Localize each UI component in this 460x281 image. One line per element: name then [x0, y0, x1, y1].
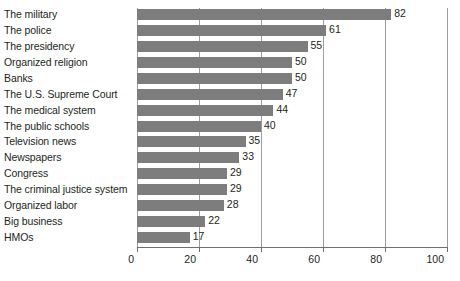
bar-value-label: 40: [261, 119, 276, 132]
category-label: The criminal justice system: [4, 183, 122, 198]
bar-value-label: 35: [246, 134, 261, 147]
category-label: Congress: [4, 167, 122, 182]
category-label: Banks: [4, 72, 122, 87]
x-axis-tick-label: 40: [246, 253, 261, 266]
x-axis-tick-label: 20: [184, 253, 199, 266]
bar-chart: The militaryThe policeThe presidencyOrga…: [0, 0, 460, 281]
bar-value-label: 29: [227, 182, 242, 195]
bar-row: 35: [137, 135, 447, 150]
bar: [137, 184, 227, 195]
category-label: The public schools: [4, 120, 122, 135]
bar: [137, 121, 261, 132]
bar: [137, 41, 308, 52]
category-label: Newspapers: [4, 151, 122, 166]
category-label: The U.S. Supreme Court: [4, 88, 122, 103]
bar: [137, 216, 205, 227]
bar: [137, 73, 292, 84]
x-axis-tick-label: 60: [308, 253, 323, 266]
bar-value-label: 47: [283, 87, 298, 100]
bar-row: 50: [137, 72, 447, 87]
category-label: Organized religion: [4, 56, 122, 71]
category-labels: The militaryThe policeThe presidencyOrga…: [0, 8, 132, 247]
x-axis-baseline: [137, 247, 447, 248]
bar-value-label: 61: [326, 23, 341, 36]
bar-row: 29: [137, 183, 447, 198]
bar: [137, 9, 391, 20]
x-axis-tick: [137, 247, 138, 252]
bar-row: 17: [137, 231, 447, 246]
category-label: Television news: [4, 135, 122, 150]
bar-value-label: 82: [391, 7, 406, 20]
x-axis-tick-label: 100: [426, 253, 447, 266]
bar: [137, 25, 326, 36]
x-axis-tick: [199, 247, 200, 252]
x-axis-tick: [323, 247, 324, 252]
category-label: The presidency: [4, 40, 122, 55]
category-label: Big business: [4, 215, 122, 230]
bar-row: 28: [137, 199, 447, 214]
bar: [137, 89, 283, 100]
bar: [137, 152, 239, 163]
category-label: Organized labor: [4, 199, 122, 214]
bar-row: 82: [137, 8, 447, 23]
category-label: The police: [4, 24, 122, 39]
bar-value-label: 29: [227, 166, 242, 179]
bar: [137, 57, 292, 68]
bar-value-label: 33: [239, 150, 254, 163]
bar-row: 50: [137, 56, 447, 71]
x-axis-tick-label: 0: [128, 253, 137, 266]
bar-value-label: 22: [205, 214, 220, 227]
x-axis-tick-label: 80: [370, 253, 385, 266]
x-axis-tick: [261, 247, 262, 252]
category-label: HMOs: [4, 231, 122, 246]
bar-value-label: 44: [273, 103, 288, 116]
category-label: The medical system: [4, 104, 122, 119]
x-axis-tick: [385, 247, 386, 252]
bar-row: 44: [137, 104, 447, 119]
bar: [137, 136, 246, 147]
plot-area: 826155505047444035332929282217: [137, 8, 447, 247]
bar-row: 55: [137, 40, 447, 55]
bar: [137, 200, 224, 211]
bar: [137, 232, 190, 243]
x-axis-tick-labels: 020406080100: [0, 253, 460, 269]
bar-row: 61: [137, 24, 447, 39]
bar-value-label: 50: [292, 55, 307, 68]
bar-row: 22: [137, 215, 447, 230]
bar-value-label: 17: [190, 230, 205, 243]
bar: [137, 168, 227, 179]
category-label: The military: [4, 8, 122, 23]
bar: [137, 105, 273, 116]
bar-row: 40: [137, 120, 447, 135]
bar-value-label: 50: [292, 71, 307, 84]
bar-row: 47: [137, 88, 447, 103]
bar-value-label: 28: [224, 198, 239, 211]
gridline: [447, 8, 448, 247]
bar-value-label: 55: [308, 39, 323, 52]
x-axis-tick: [447, 247, 448, 252]
bar-row: 33: [137, 151, 447, 166]
bar-row: 29: [137, 167, 447, 182]
